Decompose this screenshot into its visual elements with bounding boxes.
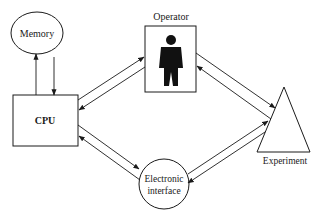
experiment-node: Experiment: [257, 87, 310, 166]
memory-label: Memory: [20, 28, 54, 39]
interface-label-line1: Electronic: [144, 174, 183, 184]
arrow-experiment-to-interface: [188, 132, 265, 183]
arrow-operator-to-cpu: [79, 67, 145, 110]
system-diagram: Memory CPU Operator Experiment Electroni…: [0, 0, 322, 216]
operator-node: Operator: [145, 11, 196, 92]
interface-label-line2: interface: [147, 186, 180, 196]
arrow-cpu-to-interface: [78, 125, 139, 169]
interface-node: Electronic interface: [139, 159, 189, 209]
cpu-label: CPU: [35, 115, 56, 126]
arrow-interface-to-cpu: [79, 136, 140, 180]
experiment-label: Experiment: [263, 156, 308, 166]
memory-node: Memory: [11, 12, 63, 54]
arrow-interface-to-experiment: [188, 121, 268, 174]
arrow-operator-to-experiment: [196, 53, 275, 108]
arrow-cpu-to-operator: [78, 57, 144, 100]
operator-label: Operator: [153, 11, 189, 22]
cpu-node: CPU: [13, 95, 78, 146]
arrow-experiment-to-operator: [197, 66, 271, 119]
